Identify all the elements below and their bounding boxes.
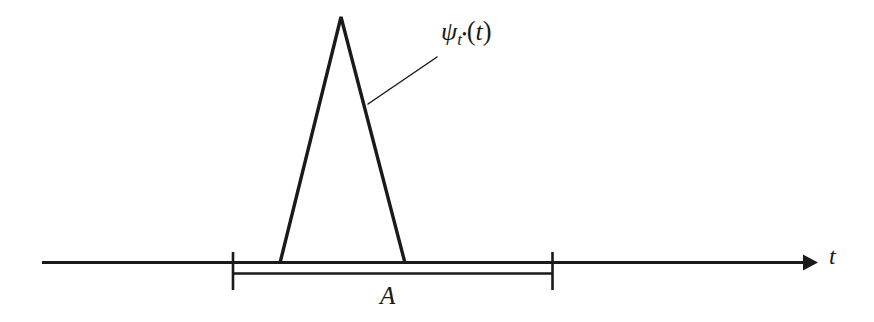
axis-label-t: t <box>829 244 836 268</box>
close-paren: ) <box>483 16 492 46</box>
function-label: ψt•(t) <box>441 18 492 49</box>
open-paren: ( <box>467 16 476 46</box>
wavelet-figure-canvas <box>0 0 874 322</box>
figure-root: ψt•(t) A t <box>0 0 874 322</box>
interval-label-a: A <box>380 283 395 308</box>
psi-symbol: ψ <box>441 17 457 46</box>
psi-argument: t <box>476 17 483 46</box>
